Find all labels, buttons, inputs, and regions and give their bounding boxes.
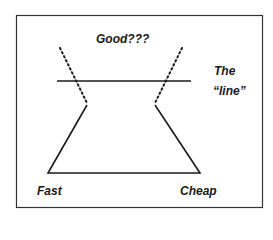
label-line: “line” <box>213 85 246 98</box>
right-dotted-extension <box>155 48 182 103</box>
triangle-shape <box>48 105 200 173</box>
label-good: Good??? <box>96 33 149 46</box>
left-dotted-extension <box>60 48 87 103</box>
label-fast: Fast <box>37 185 62 198</box>
label-the: The <box>214 65 235 78</box>
label-cheap: Cheap <box>180 185 217 198</box>
